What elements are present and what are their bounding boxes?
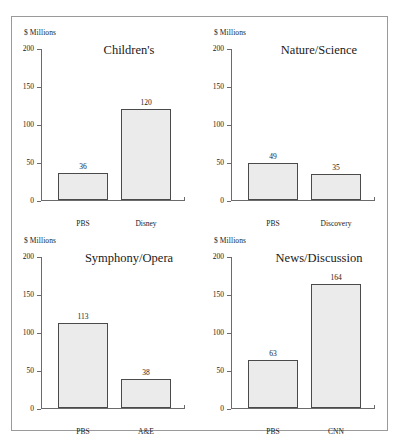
x-axis-category-labels: PBSCNN	[231, 409, 375, 423]
bar-value-label: 38	[121, 368, 171, 377]
plot-area: 20015010050036120	[41, 49, 185, 201]
y-axis-tick-label: 150	[23, 290, 34, 300]
bars-layer: 36120	[42, 49, 185, 200]
y-axis-tick: 150	[227, 295, 231, 296]
bar-group: 113	[58, 257, 108, 408]
bar-group: 38	[121, 257, 171, 408]
x-axis-category-labels: PBSDisney	[41, 201, 185, 215]
x-axis-category-labels: PBSDiscovery	[231, 201, 375, 215]
y-axis-tick-label: 0	[220, 404, 224, 414]
y-axis-tick-label: 150	[23, 82, 34, 92]
bar-group: 164	[311, 257, 361, 408]
chart-panel-3: $ MillionsSymphony/Opera2001501005001133…	[12, 225, 202, 432]
y-axis-tick: 100	[37, 125, 41, 126]
x-axis-category-label: CNN	[311, 427, 361, 436]
y-axis-tick-label: 200	[23, 44, 34, 54]
bar	[248, 360, 298, 408]
bars-layer: 11338	[42, 257, 185, 408]
figure-frame: $ MillionsChildren's20015010050036120PBS…	[11, 16, 388, 431]
chart-panel-1: $ MillionsChildren's20015010050036120PBS…	[12, 17, 202, 225]
x-axis-category-labels: PBSA&E	[41, 409, 185, 423]
y-axis-tick-label: 100	[213, 328, 224, 338]
bar	[58, 173, 108, 200]
y-axis-tick-label: 0	[30, 404, 34, 414]
bar-value-label: 113	[58, 312, 108, 321]
y-axis-tick-label: 100	[213, 120, 224, 130]
chart-panel-2: $ MillionsNature/Science2001501005004935…	[202, 17, 389, 225]
bar-group: 36	[58, 49, 108, 200]
x-axis-category-label: A&E	[121, 427, 171, 436]
y-axis-tick-label: 100	[23, 328, 34, 338]
y-axis-tick: 50	[227, 163, 231, 164]
bar	[311, 284, 361, 408]
y-axis-tick: 200	[37, 257, 41, 258]
plot-area: 2001501005004935	[231, 49, 375, 201]
y-axis-tick: 200	[227, 49, 231, 50]
y-axis-unit-label: $ Millions	[214, 28, 246, 37]
y-axis-tick-label: 0	[30, 196, 34, 206]
bar-group: 120	[121, 49, 171, 200]
y-axis-tick-label: 100	[23, 120, 34, 130]
bar-value-label: 120	[121, 98, 171, 107]
y-axis-tick-label: 50	[27, 366, 35, 376]
y-axis-unit-label: $ Millions	[214, 236, 246, 245]
y-axis-tick: 200	[227, 257, 231, 258]
y-axis-tick: 150	[37, 295, 41, 296]
bars-layer: 63164	[232, 257, 375, 408]
bar-value-label: 63	[248, 349, 298, 358]
y-axis-tick-label: 200	[213, 252, 224, 262]
y-axis-tick: 150	[37, 87, 41, 88]
y-axis-tick: 50	[37, 371, 41, 372]
bar	[121, 379, 171, 408]
bar	[248, 163, 298, 200]
panel-grid: $ MillionsChildren's20015010050036120PBS…	[12, 17, 389, 432]
y-axis-unit-label: $ Millions	[24, 236, 56, 245]
y-axis-tick: 50	[227, 371, 231, 372]
bar	[311, 174, 361, 200]
bar-value-label: 164	[311, 273, 361, 282]
y-axis-tick: 200	[37, 49, 41, 50]
bar-group: 35	[311, 49, 361, 200]
y-axis-tick: 100	[37, 333, 41, 334]
y-axis-tick-label: 200	[23, 252, 34, 262]
bar	[58, 323, 108, 408]
y-axis-tick: 100	[227, 125, 231, 126]
y-axis-tick-label: 50	[217, 366, 225, 376]
chart-panel-4: $ MillionsNews/Discussion200150100500631…	[202, 225, 389, 432]
x-axis-category-label: PBS	[248, 427, 298, 436]
y-axis-tick: 150	[227, 87, 231, 88]
y-axis-tick-label: 200	[213, 44, 224, 54]
x-axis-category-label: PBS	[58, 427, 108, 436]
plot-area: 20015010050063164	[231, 257, 375, 409]
bar-value-label: 49	[248, 152, 298, 161]
plot-area: 20015010050011338	[41, 257, 185, 409]
bar-group: 49	[248, 49, 298, 200]
bar	[121, 109, 171, 200]
y-axis-tick-label: 50	[217, 158, 225, 168]
bars-layer: 4935	[232, 49, 375, 200]
bar-value-label: 36	[58, 162, 108, 171]
y-axis-tick-label: 150	[213, 290, 224, 300]
y-axis-tick: 50	[37, 163, 41, 164]
y-axis-unit-label: $ Millions	[24, 28, 56, 37]
y-axis-tick-label: 0	[220, 196, 224, 206]
y-axis-tick: 100	[227, 333, 231, 334]
bar-group: 63	[248, 257, 298, 408]
bar-value-label: 35	[311, 163, 361, 172]
y-axis-tick-label: 50	[27, 158, 35, 168]
y-axis-tick-label: 150	[213, 82, 224, 92]
